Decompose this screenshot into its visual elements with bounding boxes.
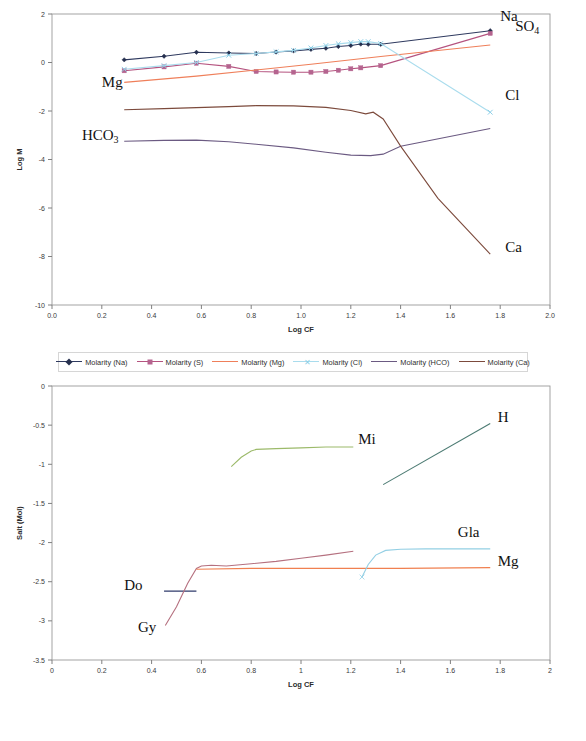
legend-item-molarity-na-[interactable]: Molarity (Na) <box>56 357 127 367</box>
subscript: 4 <box>534 25 539 36</box>
curve-label-gy: Gy <box>138 619 157 635</box>
legend-item-molarity-hco-[interactable]: Molarity (HCO) <box>371 357 449 367</box>
x-tick-label: 1.4 <box>396 312 406 319</box>
marker-square <box>349 67 353 71</box>
x-tick-label: 0.4 <box>147 312 157 319</box>
y-tick-label: -2 <box>39 108 45 115</box>
legend-label: Molarity (HCO) <box>400 358 449 367</box>
legend-marker-square <box>147 360 152 365</box>
y-tick-label: -0.5 <box>33 422 45 429</box>
legend-swatch <box>56 357 82 367</box>
y-axis-title: Log M <box>15 148 24 170</box>
curve-label-ca: Ca <box>505 239 522 255</box>
x-tick-label: 0.8 <box>246 667 256 674</box>
x-tick-label: 0.8 <box>246 312 256 319</box>
marker-square <box>291 70 295 74</box>
marker-square <box>488 31 492 35</box>
curve-label-mg: Mg <box>102 74 123 90</box>
x-tick-label: 1.8 <box>495 667 505 674</box>
chart-salt-svg: 00.20.40.60.811.21.41.61.820-0.5-1-1.5-2… <box>0 378 586 708</box>
y-tick-label: -8 <box>39 253 45 260</box>
x-axis-title: Log CF <box>288 680 314 689</box>
x-tick-label: 1.2 <box>346 312 356 319</box>
curve-label-do: Do <box>124 577 142 593</box>
legend-swatch: ✕ <box>293 357 319 367</box>
plot-frame <box>52 386 550 660</box>
legend-swatch <box>137 357 163 367</box>
curve-label-mi: Mi <box>358 431 376 447</box>
legend-label: Molarity (Ca) <box>488 358 530 367</box>
marker-square <box>309 70 313 74</box>
legend-item-molarity-s-[interactable]: Molarity (S) <box>137 357 204 367</box>
y-tick-label: 0 <box>41 59 45 66</box>
chart-panel-salt: 00.20.40.60.811.21.41.61.820-0.5-1-1.5-2… <box>0 378 586 741</box>
x-axis-title: Log CF <box>288 325 314 334</box>
y-tick-label: 2 <box>41 11 45 18</box>
legend-label: Molarity (Na) <box>85 358 127 367</box>
x-tick-label: 1.6 <box>446 667 456 674</box>
marker-square <box>359 66 363 70</box>
legend-label: Molarity (S) <box>166 358 204 367</box>
chart-panel-molarity: 0.00.20.40.60.81.01.21.41.61.82.020-2-4-… <box>0 0 586 378</box>
x-tick-label: 1 <box>299 667 303 674</box>
y-tick-label: 0 <box>41 383 45 390</box>
x-tick-label: 0.4 <box>147 667 157 674</box>
y-tick-label: -6 <box>39 205 45 212</box>
x-tick-label: 2.0 <box>545 312 555 319</box>
marker-square <box>227 64 231 68</box>
x-tick-label: 1.0 <box>296 312 306 319</box>
legend-label: Molarity (Cl) <box>322 358 362 367</box>
curve-label-cl: Cl <box>505 87 519 103</box>
marker-square <box>274 70 278 74</box>
x-tick-label: 0.2 <box>97 667 107 674</box>
curve-label-gla: Gla <box>458 524 480 540</box>
x-tick-label: 0.2 <box>97 312 107 319</box>
x-tick-label: 1.4 <box>396 667 406 674</box>
curve-label-mg: Mg <box>498 553 519 569</box>
y-tick-label: -4 <box>39 156 45 163</box>
plot-frame <box>52 14 550 305</box>
x-tick-label: 0.6 <box>197 667 207 674</box>
marker-square <box>336 68 340 72</box>
legend-label: Molarity (Mg) <box>241 358 284 367</box>
y-tick-label: -3 <box>39 617 45 624</box>
legend-swatch <box>212 357 238 367</box>
subscript: 3 <box>114 134 119 145</box>
x-tick-label: 0.6 <box>197 312 207 319</box>
x-tick-label: 0.0 <box>47 312 57 319</box>
legend-marker-x: ✕ <box>304 360 309 365</box>
curve-label-hco: HCO3 <box>82 127 119 145</box>
y-tick-label: -2 <box>39 539 45 546</box>
chart-molarity-legend: Molarity (Na)Molarity (S)Molarity (Mg)✕M… <box>58 352 528 372</box>
y-tick-label: -1.5 <box>33 500 45 507</box>
y-tick-label: -1 <box>39 461 45 468</box>
marker-square <box>324 69 328 73</box>
y-tick-label: -2.5 <box>33 578 45 585</box>
legend-item-molarity-mg-[interactable]: Molarity (Mg) <box>212 357 284 367</box>
x-tick-label: 0 <box>50 667 54 674</box>
legend-item-molarity-ca-[interactable]: Molarity (Ca) <box>459 357 530 367</box>
x-tick-label: 1.2 <box>346 667 356 674</box>
y-axis-title: Salt (Mol) <box>15 506 24 540</box>
x-tick-label: 2 <box>548 667 552 674</box>
chart-molarity-svg: 0.00.20.40.60.81.01.21.41.61.82.020-2-4-… <box>0 0 586 348</box>
y-tick-label: -10 <box>35 302 45 309</box>
legend-item-molarity-cl-[interactable]: ✕Molarity (Cl) <box>293 357 362 367</box>
x-tick-label: 1.8 <box>495 312 505 319</box>
x-tick-label: 1.6 <box>446 312 456 319</box>
legend-swatch <box>459 357 485 367</box>
curve-label-h: H <box>498 409 509 425</box>
legend-marker-diamond <box>66 358 73 365</box>
figure-page: 0.00.20.40.60.81.01.21.41.61.82.020-2-4-… <box>0 0 586 741</box>
legend-swatch <box>371 357 397 367</box>
y-tick-label: -3.5 <box>33 657 45 664</box>
marker-square <box>379 64 383 68</box>
